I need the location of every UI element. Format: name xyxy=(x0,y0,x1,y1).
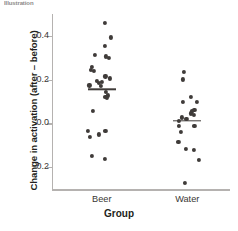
data-point xyxy=(191,148,195,152)
x-axis-line xyxy=(52,189,230,191)
data-point xyxy=(108,76,112,80)
data-point xyxy=(181,77,185,81)
data-point xyxy=(91,109,95,113)
y-tick-label: −0.2 xyxy=(31,161,49,171)
data-point xyxy=(102,44,106,48)
data-point xyxy=(183,181,187,185)
data-point xyxy=(176,139,180,143)
data-point xyxy=(192,124,196,128)
data-point xyxy=(179,130,183,134)
data-point xyxy=(182,70,186,74)
data-point xyxy=(99,84,103,88)
y-tick-label: 0.2 xyxy=(36,74,49,84)
y-tick-label: 0.4 xyxy=(36,30,49,40)
data-point xyxy=(88,135,92,139)
data-point xyxy=(197,158,201,162)
data-point xyxy=(105,96,109,100)
data-point xyxy=(97,132,101,136)
data-point xyxy=(183,147,187,151)
data-point xyxy=(92,69,96,73)
data-point xyxy=(189,95,193,99)
mean-line-water xyxy=(173,120,201,121)
data-point xyxy=(90,153,94,157)
data-point xyxy=(177,123,181,127)
data-point xyxy=(191,113,195,117)
plot-area: 0.40.20.0−0.2BeerWater xyxy=(52,14,230,189)
y-axis-line xyxy=(52,14,53,189)
data-point xyxy=(109,35,113,39)
data-point xyxy=(102,157,106,161)
y-tick-label: 0.0 xyxy=(36,117,49,127)
data-point xyxy=(86,129,90,133)
mean-line-beer xyxy=(88,89,116,90)
data-point xyxy=(93,53,97,57)
data-point xyxy=(195,100,199,104)
cropped-caption-sliver: Illustration xyxy=(4,0,78,5)
x-category-label-beer: Beer xyxy=(92,194,111,204)
data-point xyxy=(181,100,185,104)
data-point xyxy=(103,129,107,133)
data-point xyxy=(102,21,106,25)
figure-scatter-plot: Illustration Change in activation (after… xyxy=(0,0,238,231)
x-axis-title: Group xyxy=(0,208,238,219)
data-point xyxy=(87,83,91,87)
x-category-label-water: Water xyxy=(175,194,199,204)
